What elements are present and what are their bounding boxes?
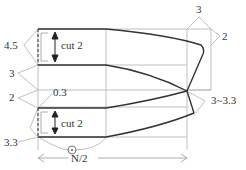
label-top-right: 2 — [222, 31, 228, 42]
fold-bracket-lower — [41, 112, 48, 133]
grain-arrow-upper — [52, 32, 58, 62]
label-upper-height: 4.5 — [4, 40, 18, 51]
grain-arrow-lower — [52, 111, 58, 134]
fold-bracket-upper — [41, 33, 48, 61]
label-tip-range: 3~3.3 — [211, 95, 236, 106]
label-top-width: 3 — [196, 4, 202, 15]
label-upper-cut: cut 2 — [61, 40, 83, 51]
label-gap-upper: 3 — [9, 68, 15, 79]
match-mark-dot — [71, 149, 73, 151]
label-lower-height: 3.3 — [4, 137, 18, 148]
label-width: N/2 — [71, 153, 88, 164]
label-lower-cut: cut 2 — [61, 118, 83, 129]
pattern-diagram — [0, 0, 246, 170]
width-dimension — [38, 154, 187, 162]
label-offset: 0.3 — [53, 87, 67, 98]
label-gap-lower: 2 — [9, 92, 15, 103]
